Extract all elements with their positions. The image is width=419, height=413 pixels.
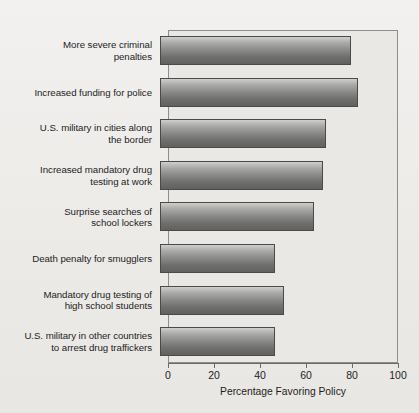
x-tick-label: 40 bbox=[254, 369, 266, 381]
x-tick bbox=[306, 363, 307, 368]
bar-track bbox=[160, 238, 391, 280]
bar-track bbox=[160, 30, 391, 72]
x-tick bbox=[214, 363, 215, 368]
x-tick-label: 100 bbox=[389, 369, 407, 381]
x-tick bbox=[260, 363, 261, 368]
bar bbox=[160, 327, 275, 356]
category-label: Surprise searches of school lockers bbox=[0, 206, 160, 229]
bar-row: Surprise searches of school lockers bbox=[0, 196, 419, 238]
bar-track bbox=[160, 280, 391, 322]
bar bbox=[160, 36, 351, 65]
bar-row: Death penalty for smugglers bbox=[0, 238, 419, 280]
bar-row: Increased mandatory drug testing at work bbox=[0, 155, 419, 197]
x-tick-label: 20 bbox=[208, 369, 220, 381]
bar-row: U.S. military in other countries to arre… bbox=[0, 321, 419, 363]
bar-row: Mandatory drug testing of high school st… bbox=[0, 280, 419, 322]
category-label: More severe criminal penalties bbox=[0, 39, 160, 62]
x-tick bbox=[168, 363, 169, 368]
category-label: U.S. military in other countries to arre… bbox=[0, 330, 160, 353]
category-label: Death penalty for smugglers bbox=[0, 253, 160, 265]
bar-track bbox=[160, 321, 391, 363]
x-tick bbox=[352, 363, 353, 368]
category-label: Increased mandatory drug testing at work bbox=[0, 164, 160, 187]
bar-row: More severe criminal penalties bbox=[0, 30, 419, 72]
x-tick-label: 60 bbox=[300, 369, 312, 381]
x-tick bbox=[398, 363, 399, 368]
category-label: Mandatory drug testing of high school st… bbox=[0, 289, 160, 312]
x-tick-label: 0 bbox=[165, 369, 171, 381]
bar-track bbox=[160, 196, 391, 238]
category-label: U.S. military in cities along the border bbox=[0, 122, 160, 145]
bar-chart: More severe criminal penalties Increased… bbox=[0, 0, 419, 413]
bar-track bbox=[160, 72, 391, 114]
bar-row: U.S. military in cities along the border bbox=[0, 113, 419, 155]
bar-row: Increased funding for police bbox=[0, 72, 419, 114]
bar bbox=[160, 244, 275, 273]
bar bbox=[160, 286, 284, 315]
bar bbox=[160, 119, 326, 148]
x-axis-title: Percentage Favoring Policy bbox=[168, 386, 398, 397]
x-tick-label: 80 bbox=[346, 369, 358, 381]
bar bbox=[160, 161, 323, 190]
bar-track bbox=[160, 155, 391, 197]
bar bbox=[160, 202, 314, 231]
bar-track bbox=[160, 113, 391, 155]
x-axis-line bbox=[168, 363, 398, 364]
bar bbox=[160, 78, 358, 107]
bar-rows: More severe criminal penalties Increased… bbox=[0, 30, 419, 363]
category-label: Increased funding for police bbox=[0, 87, 160, 99]
